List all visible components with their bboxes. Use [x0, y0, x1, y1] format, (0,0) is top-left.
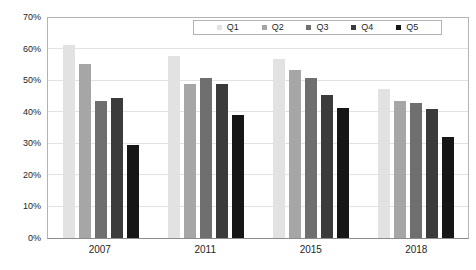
bar	[127, 145, 139, 238]
bar	[95, 101, 107, 238]
legend-label: Q3	[316, 23, 328, 32]
bar	[200, 78, 212, 238]
bar-group	[258, 18, 363, 238]
y-axis-tick-labels: 0%10%20%30%40%50%60%70%	[0, 17, 41, 238]
legend-item: Q1	[217, 23, 239, 32]
legend-item: Q5	[396, 23, 418, 32]
x-axis-tick-label: 2018	[364, 244, 470, 255]
y-axis-tick-label: 10%	[0, 201, 41, 211]
legend-item: Q2	[262, 23, 284, 32]
bar	[410, 103, 422, 238]
bar	[273, 59, 285, 238]
legend: Q1Q2Q3Q4Q5	[193, 20, 442, 35]
y-axis-tick-label: 30%	[0, 138, 41, 148]
legend-swatch-icon	[217, 25, 222, 30]
bar	[378, 89, 390, 238]
bar	[394, 101, 406, 238]
y-axis-tick-label: 0%	[0, 233, 41, 243]
legend-item: Q3	[306, 23, 328, 32]
bar	[79, 64, 91, 238]
legend-swatch-icon	[351, 25, 356, 30]
bar	[111, 98, 123, 238]
bar	[321, 95, 333, 238]
x-axis-tick-label: 2007	[47, 244, 153, 255]
y-axis-tick-label: 50%	[0, 75, 41, 85]
bar	[216, 84, 228, 238]
legend-item: Q4	[351, 23, 373, 32]
bar	[305, 78, 317, 238]
bar	[337, 108, 349, 238]
legend-label: Q1	[227, 23, 239, 32]
bar	[426, 109, 438, 238]
y-axis-tick-label: 40%	[0, 107, 41, 117]
bar	[168, 56, 180, 238]
bar-group	[153, 18, 258, 238]
x-axis-tick-label: 2015	[258, 244, 364, 255]
bar	[63, 45, 75, 238]
bar	[184, 84, 196, 238]
legend-swatch-icon	[396, 25, 401, 30]
bar	[232, 115, 244, 238]
y-axis-tick-label: 60%	[0, 44, 41, 54]
legend-label: Q2	[272, 23, 284, 32]
bar-groups	[48, 18, 468, 238]
bar-group	[48, 18, 153, 238]
legend-swatch-icon	[306, 25, 311, 30]
legend-swatch-icon	[262, 25, 267, 30]
bar	[442, 137, 454, 238]
bar	[289, 70, 301, 238]
y-axis-tick-label: 70%	[0, 12, 41, 22]
bar-group	[363, 18, 468, 238]
legend-label: Q5	[406, 23, 418, 32]
y-axis-tick-label: 20%	[0, 170, 41, 180]
x-axis-tick-label: 2011	[153, 244, 259, 255]
plot-area	[47, 17, 469, 239]
x-axis-tick-labels: 2007201120152018	[47, 244, 469, 255]
legend-label: Q4	[361, 23, 373, 32]
bar-chart: 0%10%20%30%40%50%60%70% Q1Q2Q3Q4Q5 20072…	[0, 0, 476, 270]
